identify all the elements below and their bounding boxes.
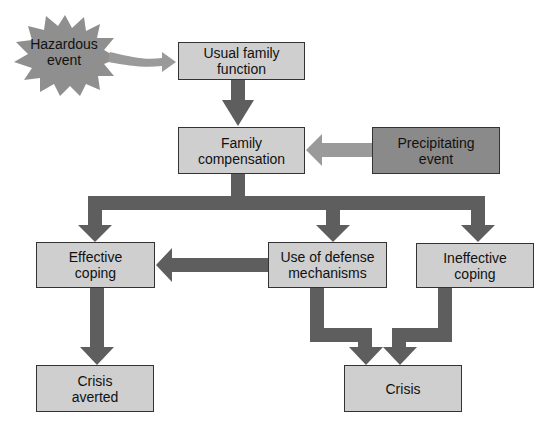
- use-of-defense-node: Use of defense mechanisms: [268, 242, 387, 288]
- use-of-defense-label: Use of defense mechanisms: [280, 249, 374, 281]
- precipitating-event-label: Precipitating event: [397, 135, 474, 167]
- defense-to-crisis-elbow: [310, 288, 372, 348]
- precipitating-to-compensation-arrowhead: [306, 134, 322, 166]
- usual-family-function-label: Usual family function: [203, 45, 279, 77]
- to-effective-arrowhead: [78, 225, 112, 242]
- ineffective-coping-label: Ineffective coping: [443, 250, 507, 282]
- defense-to-effective-shaft: [172, 258, 268, 272]
- to-effective-shaft: [88, 196, 102, 226]
- ineffective-to-crisis-arrowhead: [383, 347, 417, 365]
- hazard-to-usual-arrow: [108, 52, 176, 72]
- family-compensation-node: Family compensation: [178, 127, 305, 174]
- effective-coping-node: Effective coping: [36, 242, 155, 288]
- family-compensation-label: Family compensation: [198, 135, 285, 167]
- crisis-averted-label: Crisis averted: [72, 373, 119, 405]
- ineffective-coping-node: Ineffective coping: [416, 243, 534, 288]
- defense-to-crisis-arrowhead: [349, 347, 383, 365]
- crisis-node: Crisis: [344, 365, 462, 412]
- precipitating-to-compensation-shaft: [322, 143, 372, 157]
- to-defense-arrowhead: [316, 225, 350, 242]
- effective-coping-label: Effective coping: [69, 249, 122, 281]
- to-ineffective-arrowhead: [461, 225, 495, 242]
- to-defense-shaft: [326, 196, 340, 226]
- effective-to-averted-shaft: [90, 288, 104, 348]
- defense-to-effective-arrowhead: [156, 248, 172, 282]
- crisis-flowchart: Hazardous event Usual family function Fa…: [0, 0, 552, 430]
- usual-family-function-node: Usual family function: [178, 42, 305, 80]
- to-ineffective-shaft: [471, 196, 485, 226]
- crisis-averted-node: Crisis averted: [36, 365, 154, 412]
- ineffective-to-crisis-elbow: [392, 288, 452, 348]
- precipitating-event-node: Precipitating event: [372, 127, 500, 174]
- usual-to-compensation-shaft: [231, 80, 245, 100]
- distribution-bar: [88, 196, 485, 210]
- crisis-label: Crisis: [386, 381, 421, 397]
- hazardous-event-label: Hazardous event: [18, 36, 110, 68]
- effective-to-averted-arrowhead: [80, 347, 114, 365]
- usual-to-compensation-arrowhead: [222, 100, 254, 126]
